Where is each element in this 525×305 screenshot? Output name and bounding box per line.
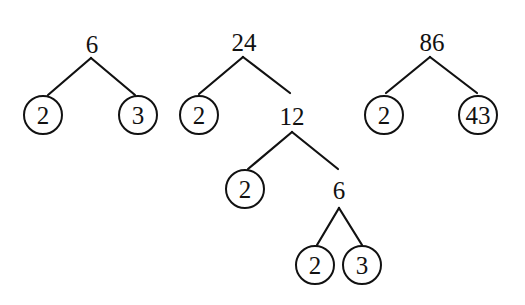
tree-edge (243, 57, 290, 93)
prime-node: 3 (132, 102, 145, 129)
tree-edge (386, 57, 430, 93)
prime-node: 3 (356, 252, 369, 279)
factor-tree-6: 6 2 3 (24, 31, 157, 134)
tree-edge (48, 58, 91, 95)
composite-node: 6 (333, 177, 346, 204)
composite-node: 86 (420, 29, 445, 56)
prime-node: 2 (37, 102, 50, 129)
tree-edge (91, 58, 135, 95)
prime-node: 2 (309, 252, 322, 279)
composite-node: 24 (232, 29, 258, 56)
prime-node: 2 (193, 102, 206, 129)
tree-edge (248, 132, 292, 169)
factor-tree-24: 24 2 12 2 6 2 3 (180, 29, 381, 284)
prime-node: 43 (466, 102, 491, 129)
tree-edge (430, 57, 477, 93)
tree-edge (339, 208, 362, 245)
tree-edge (199, 57, 243, 94)
composite-node: 6 (86, 31, 99, 58)
prime-node: 2 (239, 176, 252, 203)
factor-trees-diagram: 6 2 3 24 2 12 2 6 2 3 86 2 43 (0, 0, 525, 305)
tree-edge (292, 132, 338, 169)
factor-tree-86: 86 2 43 (365, 29, 497, 134)
tree-edge (317, 208, 339, 245)
prime-node: 2 (378, 102, 391, 129)
composite-node: 12 (280, 103, 305, 130)
